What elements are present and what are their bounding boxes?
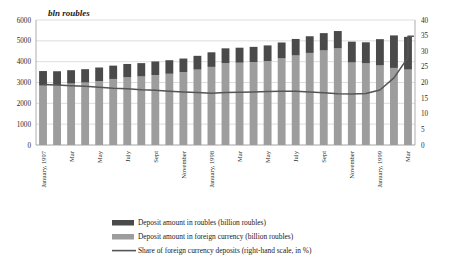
bar-segment-foreign xyxy=(250,62,258,145)
bar-segment-roubles xyxy=(376,39,384,65)
y2-axis-tick-label: 30 xyxy=(421,48,429,56)
bar-segment-foreign xyxy=(320,50,328,145)
x-axis-tick-label: Mar xyxy=(236,150,243,162)
chart-title: bln roubles xyxy=(48,8,90,18)
bar-segment-foreign xyxy=(53,85,61,145)
bar-segment-roubles xyxy=(236,48,244,63)
bar-segment-foreign xyxy=(95,81,103,145)
x-axis-tick-label: July xyxy=(124,150,131,162)
bar-segment-roubles xyxy=(39,71,47,86)
x-axis-tick-label: November xyxy=(180,150,187,179)
bar-segment-foreign xyxy=(208,67,216,145)
x-axis-tick-label: Sept xyxy=(152,151,159,163)
bar-segment-roubles xyxy=(334,31,342,48)
bar-segment-foreign xyxy=(278,58,286,145)
bar-segment-foreign xyxy=(151,75,159,145)
bar-segment-roubles xyxy=(151,61,159,75)
x-axis-tick-label: January, 1998 xyxy=(208,150,215,187)
bar-segment-foreign xyxy=(39,86,47,145)
bar-segment-foreign xyxy=(334,48,342,145)
bar-segment-foreign xyxy=(376,65,384,145)
bar-segment-roubles xyxy=(179,59,187,73)
bar-segment-roubles xyxy=(250,47,258,62)
bar-segment-foreign xyxy=(348,63,356,146)
y2-axis-tick-label: 10 xyxy=(421,110,429,118)
bar-segment-roubles xyxy=(109,66,117,79)
y-axis-tick-label: 4000 xyxy=(17,58,32,66)
bar-segment-roubles xyxy=(67,70,75,83)
bar-segment-roubles xyxy=(348,42,356,63)
x-axis-tick-label: Mar xyxy=(68,150,75,162)
y-axis-tick-label: 3000 xyxy=(17,79,32,87)
y2-axis-tick-label: 40 xyxy=(421,17,429,25)
bar-segment-roubles xyxy=(222,48,230,63)
bar-segment-foreign xyxy=(292,55,300,145)
y2-axis-tick-label: 5 xyxy=(421,126,425,134)
x-axis-tick-label: May xyxy=(264,150,271,163)
legend-swatch xyxy=(112,220,134,226)
x-axis-tick-label: January, 1997 xyxy=(40,150,47,187)
bar-segment-roubles xyxy=(208,52,216,67)
y-axis-tick-label: 6000 xyxy=(17,17,32,25)
bar-segment-roubles xyxy=(292,39,300,55)
legend-item-label: Share of foreign currency deposits (righ… xyxy=(138,246,312,255)
y2-axis-tick-label: 25 xyxy=(421,63,429,71)
bar-segment-roubles xyxy=(320,33,328,50)
chart-figure: 6000500040003000200010000403530252015105… xyxy=(0,0,451,268)
x-axis-tick-label: July xyxy=(292,150,299,162)
bar-segment-roubles xyxy=(306,36,314,53)
x-axis-tick-label: May xyxy=(96,150,103,163)
stacked-bar-line-chart: 6000500040003000200010000403530252015105… xyxy=(0,0,451,268)
bar-segment-foreign xyxy=(193,70,201,145)
x-axis-tick-label: January, 1999 xyxy=(376,150,383,187)
x-axis-tick-label: Sept xyxy=(320,151,327,163)
bar-segment-foreign xyxy=(306,53,314,145)
x-axis-tick-label: Mar xyxy=(404,150,411,162)
bar-segment-foreign xyxy=(165,74,173,145)
y-axis-tick-label: 5000 xyxy=(17,37,32,45)
bar-segment-foreign xyxy=(362,63,370,145)
y2-axis-tick-label: 15 xyxy=(421,95,429,103)
bar-segment-foreign xyxy=(67,84,75,145)
bar-segment-roubles xyxy=(193,56,201,70)
y2-axis-tick-label: 20 xyxy=(421,79,429,87)
bar-segment-roubles xyxy=(165,60,173,74)
bar-segment-foreign xyxy=(137,76,145,145)
y2-axis-tick-label: 35 xyxy=(421,32,429,40)
bar-segment-foreign xyxy=(179,72,187,145)
bar-segment-roubles xyxy=(53,71,61,85)
bar-segment-roubles xyxy=(137,63,145,76)
legend-item-label: Deposit amount in foreign currency (bill… xyxy=(138,232,294,241)
y-axis-tick-label: 0 xyxy=(27,142,31,150)
bar-segment-roubles xyxy=(123,64,131,77)
bar-segment-roubles xyxy=(278,43,286,59)
bar-segment-foreign xyxy=(222,63,230,145)
bar-segment-roubles xyxy=(264,45,272,61)
bar-segment-foreign xyxy=(404,70,412,145)
bar-segment-roubles xyxy=(362,42,370,63)
bar-segment-roubles xyxy=(95,68,103,82)
bar-segment-foreign xyxy=(123,77,131,145)
bar-segment-foreign xyxy=(81,83,89,146)
bar-segment-foreign xyxy=(264,61,272,145)
y-axis-tick-label: 2000 xyxy=(17,100,32,108)
y2-axis-tick-label: 0 xyxy=(421,142,425,150)
x-axis-tick-label: November xyxy=(348,150,355,179)
bar-segment-roubles xyxy=(81,69,89,82)
legend-item-label: Deposit amount in roubles (billion roubl… xyxy=(138,218,266,227)
bar-segment-roubles xyxy=(390,35,398,68)
legend-swatch xyxy=(112,234,134,240)
bar-segment-foreign xyxy=(236,63,244,145)
y-axis-tick-label: 1000 xyxy=(17,121,32,129)
